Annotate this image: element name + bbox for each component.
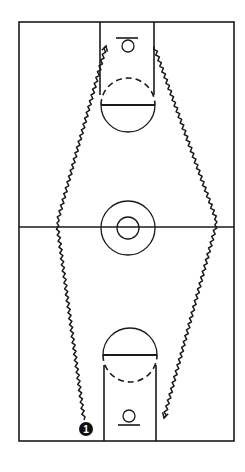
- bottom-free-throw-circle-dashed: [103, 355, 157, 382]
- dribble-paths: [56, 46, 217, 420]
- court-boundary: [19, 22, 234, 441]
- center-circle-outer: [101, 201, 155, 255]
- basketball-court-diagram: 1: [0, 0, 245, 472]
- top-free-throw-circle-solid: [101, 105, 155, 132]
- top-free-throw-circle-dashed: [101, 78, 155, 105]
- top-key: [100, 22, 155, 132]
- bottom-key: [103, 328, 157, 441]
- bottom-basket: [123, 410, 135, 422]
- center-circle-inner: [117, 217, 139, 239]
- players: 1: [79, 422, 93, 436]
- bottom-free-throw-circle-solid: [103, 328, 157, 355]
- dribble-up-left-path: [56, 46, 106, 420]
- dribble-down-right-path: [154, 46, 217, 418]
- player-marker-1: 1: [79, 422, 93, 436]
- player-number: 1: [83, 424, 89, 435]
- top-basket: [122, 40, 134, 52]
